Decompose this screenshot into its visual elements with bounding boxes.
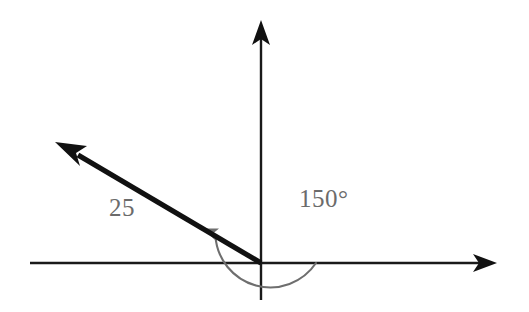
vector-shaft xyxy=(78,155,261,263)
x-axis xyxy=(30,254,497,272)
vector-magnitude-label: 25 xyxy=(109,195,135,220)
vector-diagram: 25 150° xyxy=(0,0,529,312)
angle-measure-label: 150° xyxy=(299,186,349,211)
vector-arrowhead-icon xyxy=(55,142,87,166)
vector-arrow xyxy=(55,142,261,263)
diagram-canvas xyxy=(0,0,529,312)
